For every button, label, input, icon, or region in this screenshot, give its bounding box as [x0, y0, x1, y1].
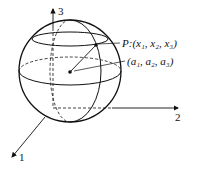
- axis-2-label: 2: [175, 111, 181, 123]
- center-label: (a₁, a₂, a₃): [127, 55, 174, 68]
- axis-3-label: 3: [58, 5, 64, 17]
- center-point: [68, 70, 72, 74]
- sphere-diagram: 3 2 1 P:(x₁, x₂, x₃) (a₁, a₂, a₃): [0, 0, 201, 169]
- hidden-axes: [53, 28, 112, 108]
- point-p-label: P:(x₁, x₂, x₃): [121, 37, 177, 50]
- equator-back: [19, 57, 121, 71]
- axis-1: [12, 117, 45, 157]
- center-leader: [74, 61, 125, 71]
- point-p: [94, 43, 98, 47]
- axis-1-label: 1: [19, 151, 25, 163]
